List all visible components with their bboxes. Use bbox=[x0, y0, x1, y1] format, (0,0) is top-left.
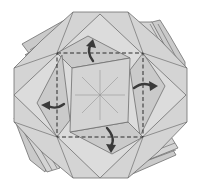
origami-diagram bbox=[0, 0, 202, 187]
radial-creases bbox=[75, 70, 125, 120]
